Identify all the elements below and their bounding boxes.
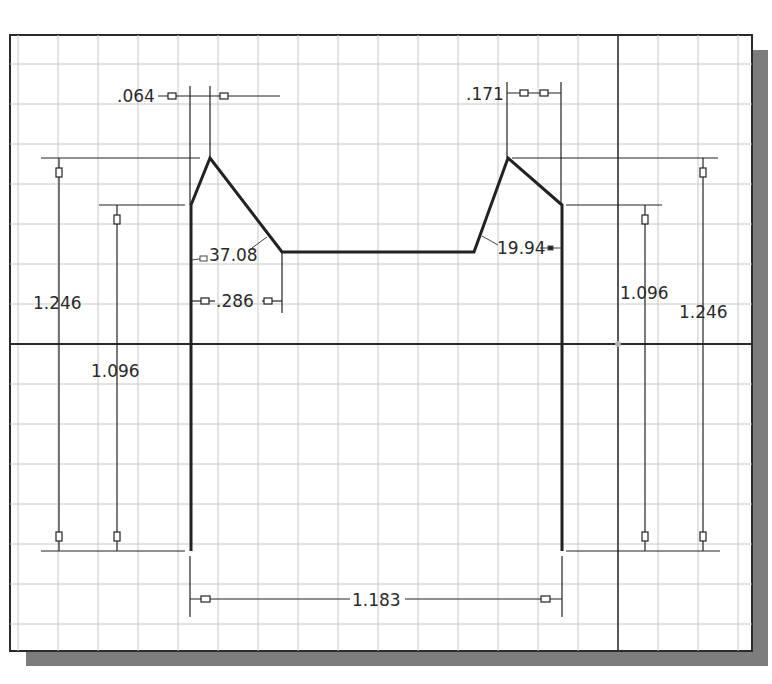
dimension-1183-label: 1.183 xyxy=(352,590,401,610)
dimension-171-label: .171 xyxy=(466,84,504,104)
dimension-left-1096-label: 1.096 xyxy=(91,361,140,381)
dimension-left-1246-label: 1.246 xyxy=(33,293,82,313)
dimension-right-1246-label: 1.246 xyxy=(679,302,728,322)
dimension-064-label: .064 xyxy=(117,86,155,106)
dimension-angle-right-label: 19.94 xyxy=(497,238,546,258)
origin-point[interactable] xyxy=(615,341,621,347)
sketch-canvas[interactable]: .064 .171 1.246 1.096 1.246 1.0 xyxy=(0,0,772,684)
dimension-angle-left-label: 37.08 xyxy=(209,245,258,265)
dimension-286-label: .286 xyxy=(216,291,254,311)
dimension-right-1096-label: 1.096 xyxy=(620,283,669,303)
